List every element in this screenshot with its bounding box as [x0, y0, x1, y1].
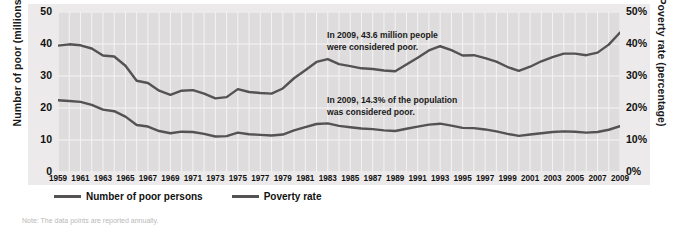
y-axis-tick-left: 30 [26, 69, 52, 81]
annotation-number-of-poor: In 2009, 43.6 million people were consid… [327, 30, 438, 53]
annotation-poverty-rate: In 2009, 14.3% of the population was con… [327, 95, 457, 118]
legend-label: Number of poor persons [86, 191, 203, 202]
y-axis-tick-right: 40% [626, 37, 660, 49]
legend-item-number-of-poor-persons: Number of poor persons [54, 191, 203, 202]
y-axis-tick-right: 20% [626, 101, 660, 113]
x-axis-tick: 2009 [607, 174, 633, 183]
poverty-chart-figure: Number of poor (millions) Poverty rate (… [0, 0, 677, 225]
y-axis-tick-right: 50% [626, 5, 660, 17]
annotation-line-2: was considered poor. [327, 107, 457, 119]
legend-item-poverty-rate: Poverty rate [232, 191, 322, 202]
y-axis-tick-right: 30% [626, 69, 660, 81]
chart-legend: Number of poor persons Poverty rate [54, 191, 322, 202]
y-axis-tick-right: 10% [626, 133, 660, 145]
chart-note: Note: The data points are reported annua… [22, 217, 158, 224]
legend-label: Poverty rate [264, 191, 322, 202]
annotation-line-1: In 2009, 43.6 million people [327, 30, 438, 42]
y-axis-tick-left: 40 [26, 37, 52, 49]
legend-line-icon [54, 195, 81, 198]
annotation-line-1: In 2009, 14.3% of the population [327, 95, 457, 107]
y-axis-tick-left: 50 [26, 5, 52, 17]
y-axis-tick-left: 10 [26, 133, 52, 145]
annotation-line-2: were considered poor. [327, 42, 438, 54]
y-axis-title-left: Number of poor (millions) [11, 0, 23, 146]
legend-line-icon [232, 195, 259, 198]
y-axis-tick-left: 20 [26, 101, 52, 113]
